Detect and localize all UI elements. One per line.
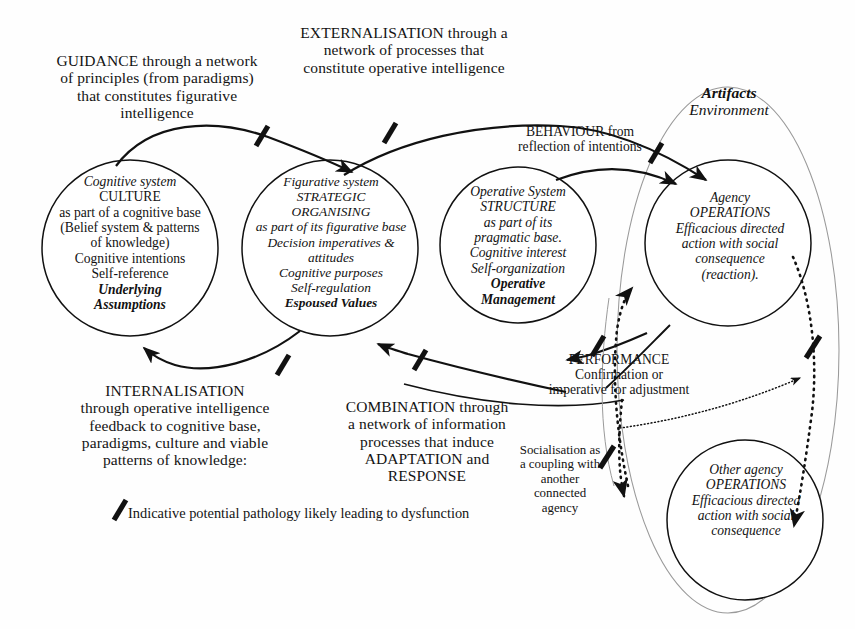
cognitive-line-6: Self-reference (40, 266, 220, 281)
cognitive-line-0: Cognitive system (40, 174, 220, 189)
agency-line-1: OPERATIONS (650, 205, 810, 220)
figurative-line-8: Espoused Values (240, 295, 422, 310)
other-agency-line-4: consequence (662, 523, 830, 538)
cognitive-line-4: of knowledge) (40, 235, 220, 250)
operative-line-7: Management (444, 292, 592, 307)
figurative-line-1: STRATEGIC (240, 189, 422, 204)
agency-line-0: Agency (650, 190, 810, 205)
cognitive-line-1: CULTURE (40, 189, 220, 204)
pathology-mark-legend (114, 500, 126, 520)
figurative-system-text: Figurative system STRATEGIC ORGANISING a… (240, 174, 422, 310)
figurative-line-7: Self-regulation (240, 280, 422, 295)
agency-line-3: action with social (650, 236, 810, 251)
pathology-mark-internalisation (277, 355, 289, 375)
cognitive-line-7: Underlying (40, 282, 220, 297)
other-agency-line-1: OPERATIONS (662, 477, 830, 492)
pathology-mark-externalisation (384, 123, 396, 143)
agency-operations-text: Agency OPERATIONS Efficacious directed a… (650, 190, 810, 282)
behaviour-label: BEHAVIOUR from reflection of intentions (474, 124, 686, 154)
pathology-mark-combination (414, 350, 426, 370)
internalisation-label: INTERNALISATION through operative intell… (30, 382, 320, 469)
operative-system-text: Operative System STRUCTURE as part of it… (444, 184, 592, 307)
environment-line-artifacts: Artifacts (648, 84, 810, 101)
agency-line-2: Efficacious directed (650, 221, 810, 236)
figurative-line-0: Figurative system (240, 174, 422, 189)
cognitive-system-text: Cognitive system CULTURE as part of a co… (40, 174, 220, 312)
socialisation-label: Socialisation as a coupling with another… (498, 443, 622, 515)
artifacts-environment-label: Artifacts Environment (648, 84, 810, 118)
performance-label: PERFORMANCE Confirmation or imperative f… (512, 352, 726, 398)
operative-line-5: Self-organization (444, 261, 592, 276)
operative-line-6: Operative (444, 276, 592, 291)
other-agency-line-0: Other agency (662, 462, 830, 477)
agency-line-4: consequence (650, 251, 810, 266)
guidance-label: GUIDANCE through a network of principles… (22, 52, 292, 121)
cognitive-line-5: Cognitive intentions (40, 251, 220, 266)
operative-line-0: Operative System (444, 184, 592, 199)
operative-line-1: STRUCTURE (444, 199, 592, 214)
figurative-line-3: as part of its figurative base (240, 219, 422, 234)
other-agency-line-2: Efficacious directed (662, 493, 830, 508)
externalisation-label: EXTERNALISATION through a network of pro… (258, 24, 550, 76)
behaviour-arrow (556, 169, 676, 184)
operative-line-4: Cognitive interest (444, 245, 592, 260)
environment-line-environment: Environment (648, 101, 810, 118)
operative-line-3: pragmatic base. (444, 230, 592, 245)
cognitive-line-2: as part of a cognitive base (40, 205, 220, 220)
figurative-line-6: Cognitive purposes (240, 265, 422, 280)
figurative-line-5: attitudes (240, 250, 422, 265)
other-agency-line-3: action with social (662, 508, 830, 523)
other-agency-operations-text: Other agency OPERATIONS Efficacious dire… (662, 462, 830, 539)
agency-line-5: (reaction). (650, 267, 810, 282)
operative-line-2: as part of its (444, 215, 592, 230)
figurative-line-2: ORGANISING (240, 204, 422, 219)
pathology-legend-label: Indicative potential pathology likely le… (128, 505, 469, 522)
figurative-line-4: Decision imperatives & (240, 235, 422, 250)
internalisation-arrow (144, 331, 300, 368)
diagram-canvas: GUIDANCE through a network of principles… (0, 0, 855, 629)
cognitive-line-8: Assumptions (40, 297, 220, 312)
cognitive-line-3: (Belief system & patterns (40, 220, 220, 235)
